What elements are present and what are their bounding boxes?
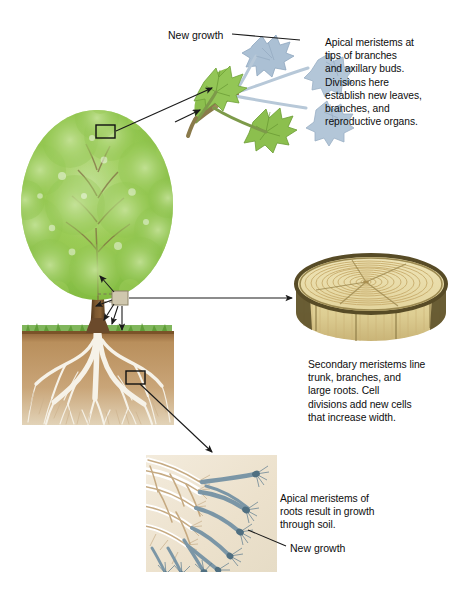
- meristem-figure: Apical meristems at tips of branches and…: [0, 0, 468, 589]
- label-new-growth-shoot: New growth: [168, 29, 223, 41]
- caption-apical-root-meristems: Apical meristems of roots result in grow…: [280, 492, 430, 532]
- leader-new-growth-top: [232, 34, 300, 40]
- caption-secondary-meristems: Secondary meristems line trunk, branches…: [308, 358, 460, 424]
- cut-log-inset: [296, 255, 446, 341]
- label-new-growth-root: New growth: [290, 542, 345, 554]
- root-tip-inset: [140, 455, 277, 578]
- caption-apical-shoot-meristems: Apical meristems at tips of branches and…: [325, 36, 465, 128]
- tree-illustration: [5, 94, 188, 425]
